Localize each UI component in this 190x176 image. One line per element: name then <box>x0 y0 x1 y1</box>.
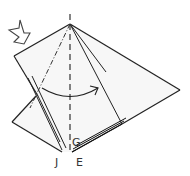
push-arrow-icon <box>9 20 30 44</box>
label-j: J <box>54 156 58 169</box>
label-g: G <box>72 136 81 149</box>
label-e: E <box>76 156 83 169</box>
origami-diagram: G J E <box>0 0 190 176</box>
